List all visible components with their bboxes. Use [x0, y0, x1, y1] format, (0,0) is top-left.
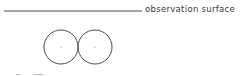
observation-surface-label: observation surface: [145, 4, 235, 14]
right-circle-center: [94, 46, 95, 47]
left-circle-center: [60, 46, 61, 47]
cropped-bottom-marks: [16, 74, 43, 75]
